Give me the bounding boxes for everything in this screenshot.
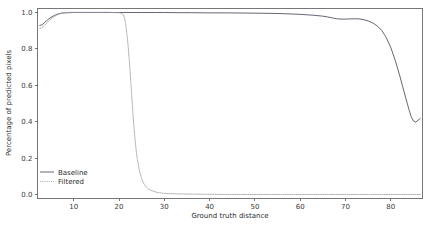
x-tick-label: 40	[205, 203, 214, 211]
legend-label-filtered: Filtered	[58, 178, 84, 186]
chart-figure: 1020304050607080 0.00.20.40.60.81.0 Grou…	[0, 0, 435, 225]
chart-legend: BaselineFiltered	[40, 169, 88, 187]
x-tick-label: 10	[69, 203, 78, 211]
x-tick-label: 50	[250, 203, 259, 211]
y-tick-label: 0.0	[21, 191, 32, 199]
y-tick-label: 0.8	[21, 45, 32, 53]
axes-frame	[38, 9, 423, 199]
x-tick-label: 70	[341, 203, 350, 211]
series-line-baseline	[40, 13, 420, 123]
y-tick-label: 0.2	[21, 155, 32, 163]
series-line-filtered	[40, 12, 420, 194]
y-tick-label: 0.4	[21, 118, 33, 126]
x-tick-label: 30	[160, 203, 169, 211]
plot-frame	[38, 9, 423, 199]
legend-label-baseline: Baseline	[58, 169, 88, 177]
y-axis-ticks: 0.00.20.40.60.81.0	[21, 9, 37, 200]
y-axis-label: Percentage of predicted pixels	[5, 50, 13, 157]
x-axis-label: Ground truth distance	[191, 212, 268, 220]
line-chart: 1020304050607080 0.00.20.40.60.81.0 Grou…	[0, 0, 435, 225]
x-axis-ticks: 1020304050607080	[69, 199, 395, 211]
x-tick-label: 20	[115, 203, 124, 211]
y-tick-label: 0.6	[21, 82, 33, 90]
x-tick-label: 60	[296, 203, 305, 211]
y-tick-label: 1.0	[21, 9, 32, 17]
chart-series	[40, 12, 420, 194]
x-tick-label: 80	[386, 203, 395, 211]
